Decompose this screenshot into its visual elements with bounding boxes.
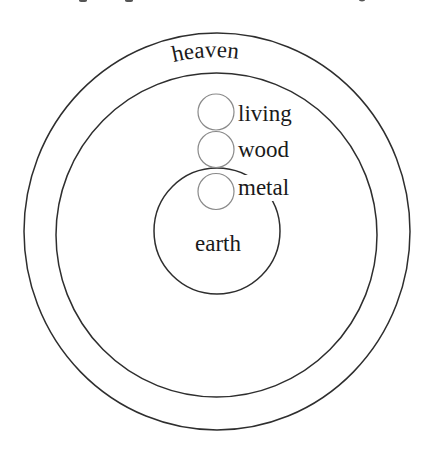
wood-circle: [198, 132, 234, 168]
metal-label: metal: [238, 175, 289, 200]
cosmology-diagram: heaven living wood metal earth: [0, 0, 430, 457]
living-circle: [198, 94, 234, 130]
metal-circle: [198, 174, 234, 210]
clipped-text-fragments: [79, 0, 365, 2]
earth-label: earth: [195, 231, 241, 256]
living-label: living: [238, 101, 292, 126]
heaven-label-text: heaven: [169, 37, 241, 67]
heaven-label: heaven: [169, 37, 241, 67]
wood-label: wood: [238, 137, 290, 162]
